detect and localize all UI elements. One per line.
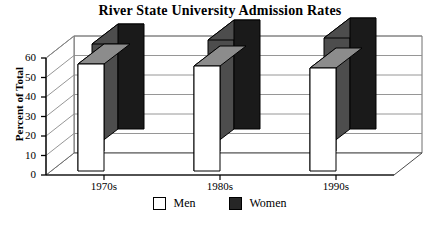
y-tick-40: 40 (10, 90, 36, 102)
y-tick-60: 60 (10, 51, 36, 63)
chart-legend: Men Women (0, 196, 440, 211)
legend-swatch-men (153, 197, 166, 210)
legend-label-men: Men (173, 196, 195, 211)
legend-swatch-women (229, 197, 242, 210)
y-tick-10: 10 (10, 149, 36, 161)
y-tick-20: 20 (10, 129, 36, 141)
y-axis (41, 58, 46, 175)
x-tick-1980s: 1980s (185, 180, 255, 192)
y-tick-0: 0 (10, 168, 36, 180)
chart-3d-scene (0, 0, 440, 228)
plot-area: Percent of Total 0 10 20 30 40 50 60 197… (0, 0, 440, 228)
x-tick-1970s: 1970s (69, 180, 139, 192)
y-tick-50: 50 (10, 71, 36, 83)
chart-root: River State University Admission Rates (0, 0, 440, 228)
legend-item-men[interactable]: Men (153, 196, 195, 211)
x-tick-1990s: 1990s (301, 180, 371, 192)
legend-label-women: Women (249, 196, 286, 211)
legend-item-women[interactable]: Women (229, 196, 286, 211)
y-tick-30: 30 (10, 110, 36, 122)
